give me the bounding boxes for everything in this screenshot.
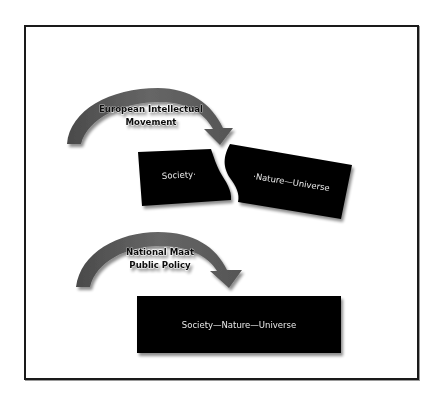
- curved-arrow-national-maat-public-policy: National Maat Public Policy: [76, 232, 242, 288]
- fragment-left-text: Society·: [162, 169, 196, 181]
- arrow-label-line-1: National Maat: [126, 247, 194, 257]
- broken-box-left-society: Society·: [138, 149, 231, 206]
- arrow-label-line-1: European Intellectual: [99, 104, 203, 114]
- arrow-label-line-2: Movement: [126, 117, 177, 127]
- diagram-canvas: European Intellectual Movement Society· …: [0, 0, 444, 408]
- broken-box-right-nature-universe: ·Nature—Universe: [225, 144, 352, 219]
- arrow-label-line-2: Public Policy: [129, 260, 191, 270]
- unified-box-text: Society—Nature—Universe: [182, 320, 296, 330]
- curved-arrow-european-intellectual-movement: European Intellectual Movement: [67, 88, 233, 145]
- unified-box-society-nature-universe: Society—Nature—Universe: [137, 296, 341, 353]
